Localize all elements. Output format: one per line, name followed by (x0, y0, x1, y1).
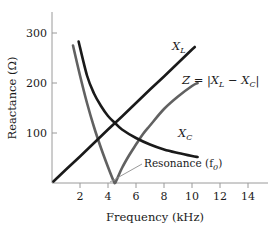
x-tick-label-12: 12 (213, 190, 227, 203)
xl-curve-label: XL (171, 39, 186, 55)
resonance-annotation: Resonance (f0) (144, 157, 222, 172)
z-label-mid: − X (224, 73, 250, 87)
chart-canvas: 300 200 100 2 4 6 8 10 12 14 Frequency (… (0, 0, 276, 229)
y-tick-label-300: 300 (26, 27, 47, 40)
x-tick-label-6: 6 (133, 190, 140, 203)
z-curve-label: Z = |XL − XC| (181, 73, 259, 89)
x-tick-label-4: 4 (105, 190, 112, 203)
resonance-leader-line (110, 164, 142, 182)
z-label-end: | (256, 73, 260, 88)
xl-label-sub: L (179, 46, 185, 55)
reactance-vs-frequency-chart: 300 200 100 2 4 6 8 10 12 14 Frequency (… (0, 0, 276, 229)
y-axis-title: Reactance (Ω) (5, 56, 19, 139)
resonance-base: Resonance (f (144, 157, 214, 169)
x-tick-label-8: 8 (161, 190, 168, 203)
x-tick-label-2: 2 (77, 190, 84, 203)
xc-label-sub: C (186, 133, 192, 142)
x-axis-title: Frequency (kHz) (106, 210, 204, 224)
y-tick-label-200: 200 (26, 77, 47, 90)
resonance-end: ) (218, 157, 222, 169)
y-tick-label-100: 100 (26, 127, 47, 140)
z-label-base: Z = |X (181, 73, 220, 88)
x-tick-label-10: 10 (185, 190, 199, 203)
x-tick-label-14: 14 (241, 190, 255, 203)
xc-curve-label: XC (177, 126, 192, 142)
